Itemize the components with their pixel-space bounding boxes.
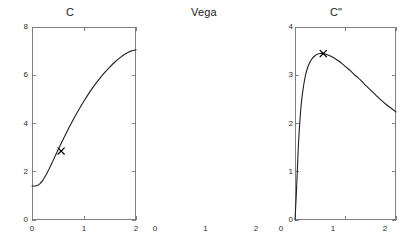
y-tick-label: 0 (24, 216, 28, 224)
data-point-marker-x (58, 148, 64, 154)
x-tick-label: 0 (271, 225, 291, 233)
y-tick-label: 4 (24, 120, 28, 128)
y-tick-label: 6 (24, 71, 28, 79)
x-tick-label: 1 (323, 225, 343, 233)
y-tick-label: 2 (24, 168, 28, 176)
x-tick-label: 0 (22, 225, 42, 233)
x-tick-label: 1 (74, 225, 94, 233)
x-tick-label: 1 (196, 225, 216, 233)
x-tick-label: 2 (375, 225, 395, 233)
y-tick-label: 8 (24, 23, 28, 31)
chart-panel-c-second-derivative: C" -100102030 012 (268, 0, 404, 239)
x-tick-label: 0 (145, 225, 165, 233)
data-curve (32, 50, 136, 186)
plot-graphics-c-second-derivative (268, 0, 404, 239)
chart-panel-vega: Vega 01234 012 (140, 0, 268, 239)
chart-panel-c: C 02468 012 (0, 0, 140, 239)
x-tick-label: 2 (246, 225, 266, 233)
figure-canvas: C 02468 012 Vega 01234 012 C" -100102030… (0, 0, 404, 239)
